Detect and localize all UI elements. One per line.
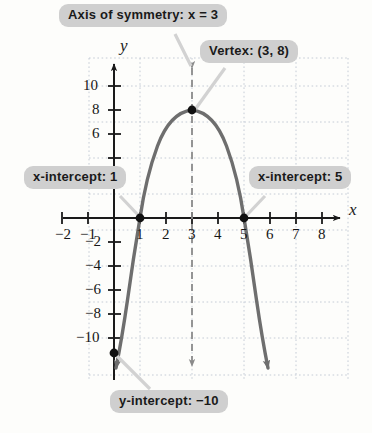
leader-xint-left (120, 196, 139, 216)
leader-axis-symmetry (175, 34, 191, 66)
y-tick-label-8: 8 (92, 101, 100, 118)
callout-x-intercept-left: x-intercept: 1 (24, 166, 126, 189)
marked-points (110, 106, 249, 358)
callout-axis-of-symmetry: Axis of symmetry: x = 3 (59, 4, 227, 27)
x-tick-label-7: 7 (292, 226, 300, 243)
x-tick-label-4: 4 (214, 226, 222, 243)
graph-figure: y x −2 −1 1 2 3 4 5 6 7 8 10 8 6 −2 −4 −… (0, 0, 372, 433)
point-vertex (188, 106, 197, 115)
leader-xint-right (246, 196, 265, 216)
parabola-right-branch (192, 110, 268, 368)
coordinate-plane (0, 0, 372, 433)
y-axis-label: y (120, 36, 128, 56)
y-tick-label--4: −4 (85, 257, 101, 274)
y-tick-label-6: 6 (92, 125, 100, 142)
y-tick-label--8: −8 (85, 305, 101, 322)
point-x-intercept-left (136, 214, 145, 223)
y-tick-label-10: 10 (83, 77, 98, 94)
x-tick-label-6: 6 (266, 226, 274, 243)
point-y-intercept (110, 349, 119, 358)
x-tick-label-3: 3 (188, 226, 196, 243)
x-tick-label-5: 5 (240, 226, 248, 243)
x-tick-label--2: −2 (55, 226, 71, 243)
parabola-left-branch (116, 110, 192, 368)
y-tick-label--2: −2 (85, 233, 101, 250)
leader-vertex (194, 68, 225, 111)
x-tick-label-1: 1 (136, 226, 144, 243)
x-axis-label: x (349, 200, 357, 220)
callout-x-intercept-right: x-intercept: 5 (249, 166, 351, 189)
y-tick-label--6: −6 (85, 281, 101, 298)
point-x-intercept-right (240, 214, 249, 223)
leader-yint (117, 356, 150, 389)
callout-vertex: Vertex: (3, 8) (200, 40, 298, 63)
y-tick-label--10: −10 (76, 329, 99, 346)
x-tick-label-2: 2 (162, 226, 170, 243)
x-tick-label-8: 8 (318, 226, 326, 243)
callout-y-intercept: y-intercept: −10 (110, 390, 228, 413)
